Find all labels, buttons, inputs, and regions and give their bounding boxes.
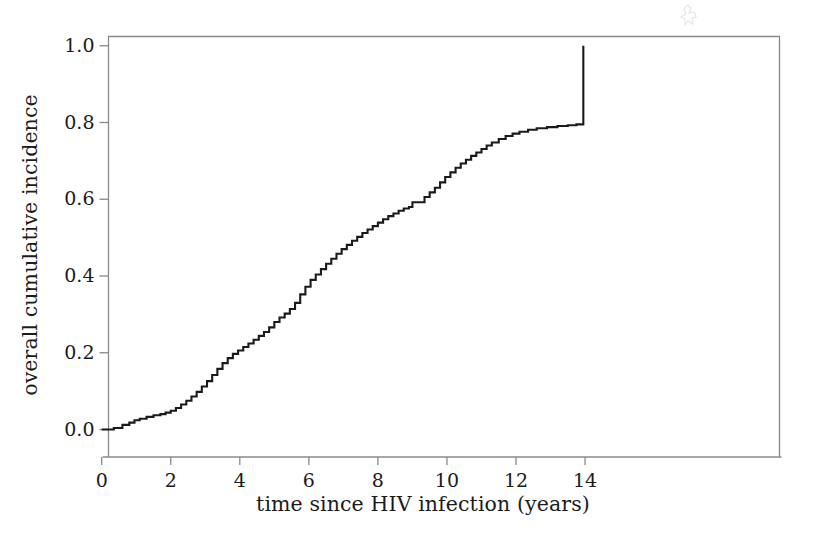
y-tick-label-0.2: 0.2	[64, 341, 94, 363]
chart-figure: overall cumulative incidence time since …	[0, 0, 816, 539]
x-tick-label-12: 12	[486, 469, 546, 491]
x-tick-label-8: 8	[348, 469, 408, 491]
x-tick-label-10: 10	[417, 469, 477, 491]
x-tick-label-2: 2	[141, 469, 201, 491]
x-tick-label-0: 0	[72, 469, 132, 491]
y-tick-label-0.4: 0.4	[64, 264, 94, 286]
plot-frame	[109, 37, 780, 458]
y-tick-label-0.8: 0.8	[64, 111, 94, 133]
x-tick-label-4: 4	[210, 469, 270, 491]
x-tick-label-6: 6	[279, 469, 339, 491]
x-axis-label: time since HIV infection (years)	[0, 492, 816, 516]
incidence-step-curve	[102, 46, 584, 430]
y-tick-label-0.6: 0.6	[64, 187, 94, 209]
plot-area	[0, 0, 816, 539]
x-axis-line	[102, 457, 782, 465]
y-tick-label-1.0: 1.0	[64, 34, 94, 56]
y-axis-label: overall cumulative incidence	[18, 35, 42, 455]
y-tick-label-0.0: 0.0	[64, 418, 94, 440]
y-axis-ticks	[100, 46, 109, 430]
plot-frame-path	[109, 37, 780, 458]
incidence-curve-path	[102, 46, 584, 430]
x-tick-label-14: 14	[555, 469, 615, 491]
